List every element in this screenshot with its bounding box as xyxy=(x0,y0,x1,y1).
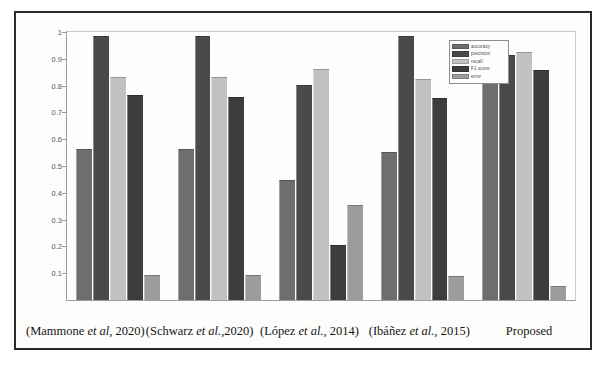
y-axis-tick-label: 0.8 xyxy=(52,81,62,90)
legend-swatch xyxy=(452,66,469,72)
y-axis-tick-label: 0.1 xyxy=(52,269,62,278)
bar xyxy=(432,98,448,300)
bar xyxy=(195,36,211,300)
legend-item: F1 score xyxy=(452,66,506,73)
legend-label: precision xyxy=(471,51,490,57)
bar xyxy=(211,77,227,300)
legend-item: precision xyxy=(452,51,506,58)
bar xyxy=(110,77,126,300)
y-axis-tick-label: 0.7 xyxy=(52,108,62,117)
y-axis-tick-label: 0.9 xyxy=(52,54,62,63)
bar xyxy=(296,85,312,300)
y-axis-tick-label: 0.4 xyxy=(52,188,62,197)
legend-label: recall xyxy=(471,59,483,65)
legend-swatch xyxy=(452,74,469,80)
bar xyxy=(415,79,431,300)
bar xyxy=(127,95,143,300)
legend-item: error xyxy=(452,73,506,80)
bar xyxy=(93,36,109,300)
legend-label: F1 score xyxy=(471,66,490,72)
bar-group xyxy=(67,32,169,300)
y-axis-tick-label: 0.6 xyxy=(52,135,62,144)
x-axis-category-labels: (Mammone et al, 2020)(Schwarz et al.,202… xyxy=(26,318,584,344)
x-axis-label: (López et al., 2014) xyxy=(255,324,365,339)
bar xyxy=(550,286,566,300)
legend-swatch xyxy=(452,51,469,57)
legend-item: accuracy xyxy=(452,43,506,50)
bar-group xyxy=(169,32,271,300)
bar xyxy=(245,275,261,300)
legend-swatch xyxy=(452,44,469,50)
figure-frame: 0.10.20.30.40.50.60.70.80.91 accuracypre… xyxy=(14,11,592,350)
bar xyxy=(347,205,363,300)
bar xyxy=(178,149,194,300)
bar xyxy=(279,180,295,300)
y-axis-tick-label: 0.3 xyxy=(52,215,62,224)
x-axis-label: Proposed xyxy=(474,324,584,339)
bar xyxy=(76,149,92,300)
legend-label: error xyxy=(471,74,481,80)
bar xyxy=(448,276,464,300)
bar xyxy=(499,55,515,300)
legend-item: recall xyxy=(452,58,506,65)
bar xyxy=(381,152,397,300)
bar xyxy=(144,275,160,300)
legend-label: accuracy xyxy=(471,44,490,50)
x-axis-label: (Schwarz et al.,2020) xyxy=(145,324,255,339)
bar xyxy=(228,97,244,300)
bar xyxy=(330,245,346,300)
bar xyxy=(398,36,414,300)
bar xyxy=(516,52,532,300)
legend-swatch xyxy=(452,59,469,65)
chart-legend: accuracyprecisionrecallF1 scoreerror xyxy=(449,40,509,84)
bar-group xyxy=(270,32,372,300)
x-axis-label: (Mammone et al, 2020) xyxy=(26,324,145,339)
bar xyxy=(533,70,549,300)
y-axis-tick-label: 0.2 xyxy=(52,242,62,251)
y-axis-tick-label: 1 xyxy=(58,28,62,37)
y-axis-tick-label: 0.5 xyxy=(52,162,62,171)
bar xyxy=(313,69,329,300)
x-axis-label: (Ibáñez et al., 2015) xyxy=(364,324,474,339)
